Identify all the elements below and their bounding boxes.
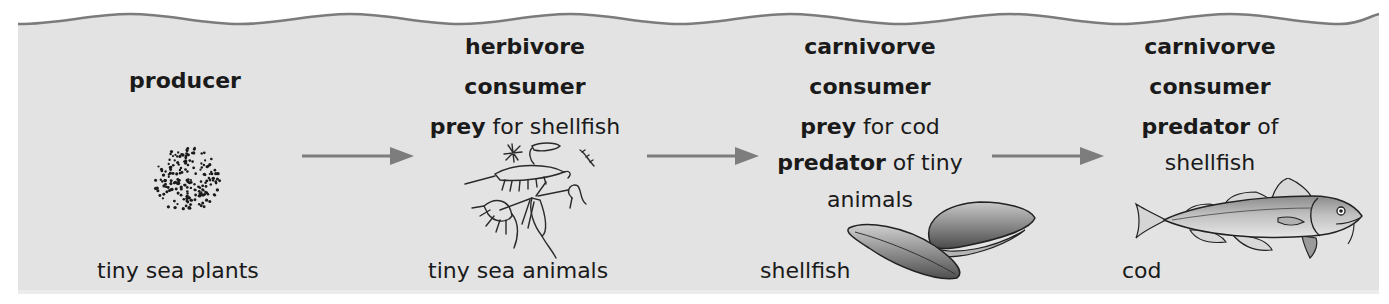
role-normal: shellfish bbox=[1165, 150, 1255, 175]
organism-label: tiny sea plants bbox=[97, 257, 259, 285]
role-line: consumer bbox=[1100, 70, 1320, 104]
role-line: carnivorve bbox=[1100, 30, 1320, 64]
role-line: consumer bbox=[405, 70, 645, 104]
organism-label: cod bbox=[1122, 257, 1162, 285]
role-line: consumer bbox=[760, 70, 980, 104]
role-line: predator of bbox=[1100, 110, 1320, 144]
role-bold: predator bbox=[1142, 114, 1251, 139]
organism-label: tiny sea animals bbox=[428, 257, 608, 285]
mussel-icon bbox=[845, 190, 1045, 290]
role-bold: prey bbox=[800, 114, 856, 139]
role-bold: predator bbox=[777, 150, 886, 175]
zooplankton-icon bbox=[460, 140, 610, 260]
role-line: prey for cod bbox=[760, 110, 980, 144]
role-bold: consumer bbox=[1149, 74, 1270, 99]
role-line: carnivorve bbox=[760, 30, 980, 64]
role-line: predator of tiny bbox=[760, 146, 980, 180]
role-bold: consumer bbox=[809, 74, 930, 99]
role-bold: carnivorve bbox=[1144, 34, 1276, 59]
role-line: producer bbox=[100, 64, 270, 98]
arrow-right-icon bbox=[300, 146, 415, 166]
role-bold: producer bbox=[129, 68, 241, 93]
role-normal: of bbox=[1250, 114, 1278, 139]
role-line: shellfish bbox=[1100, 146, 1320, 180]
organism-label: shellfish bbox=[760, 257, 850, 285]
role-normal: of tiny bbox=[886, 150, 963, 175]
role-bold: herbivore bbox=[465, 34, 585, 59]
plankton-dots-icon bbox=[150, 144, 225, 216]
role-normal: for cod bbox=[856, 114, 940, 139]
role-bold: consumer bbox=[464, 74, 585, 99]
role-line: prey for shellfish bbox=[405, 110, 645, 144]
cod-fish-icon bbox=[1132, 178, 1370, 268]
role-normal: for shellfish bbox=[486, 114, 621, 139]
role-line: herbivore bbox=[405, 30, 645, 64]
role-bold: prey bbox=[430, 114, 486, 139]
arrow-right-icon bbox=[645, 146, 760, 166]
role-bold: carnivorve bbox=[804, 34, 936, 59]
arrow-right-icon bbox=[990, 146, 1105, 166]
